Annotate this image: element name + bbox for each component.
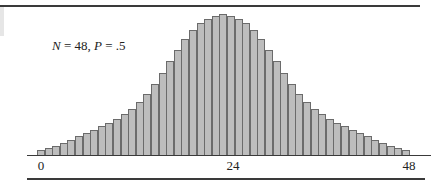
x-axis-baseline [27, 155, 431, 156]
page-edge-shade [0, 6, 4, 36]
x-tick-label-48: 48 [403, 158, 416, 174]
x-tick-label-24: 24 [227, 158, 240, 174]
histogram-bars [37, 0, 429, 156]
bottom-rule [27, 178, 425, 180]
x-tick-label-0: 0 [38, 158, 45, 174]
